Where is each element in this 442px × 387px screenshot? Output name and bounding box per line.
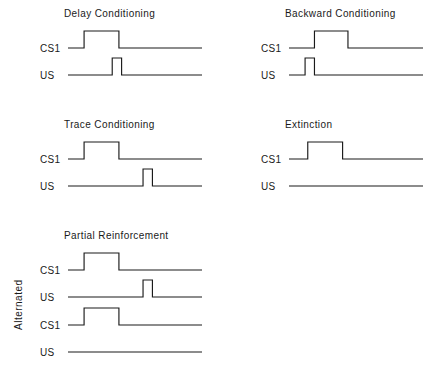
trace-label-us: US (40, 292, 55, 303)
trace-label-us: US (261, 70, 276, 81)
trace-label-cs1: CS1 (40, 154, 60, 165)
trace-label-cs1: CS1 (261, 154, 281, 165)
alternated-axis-label: Alternated (13, 279, 24, 330)
panel-title: Delay Conditioning (64, 8, 155, 19)
side-label-layer: Alternated (13, 279, 24, 330)
figure-canvas: Delay ConditioningCS1USBackward Conditio… (0, 0, 442, 387)
trace-label-cs1: CS1 (40, 43, 60, 54)
trace-label-cs1: CS1 (261, 43, 281, 54)
panel-title: Partial Reinforcement (64, 230, 169, 241)
panel-title: Trace Conditioning (64, 119, 155, 130)
trace-label-us: US (40, 347, 55, 358)
panel-title: Extinction (285, 119, 332, 130)
panel-title: Backward Conditioning (285, 8, 396, 19)
trace-label-us: US (40, 181, 55, 192)
conditioning-paradigms-figure: Delay ConditioningCS1USBackward Conditio… (0, 0, 442, 387)
trace-label-us: US (261, 181, 276, 192)
trace-label-cs1: CS1 (40, 320, 60, 331)
trace-label-cs1: CS1 (40, 265, 60, 276)
figure-background (0, 0, 442, 387)
trace-label-us: US (40, 70, 55, 81)
